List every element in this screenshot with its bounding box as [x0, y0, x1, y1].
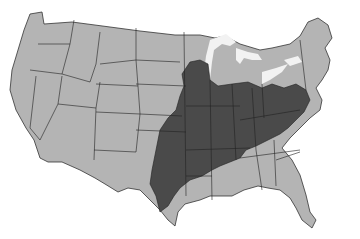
us-map: [0, 0, 360, 239]
